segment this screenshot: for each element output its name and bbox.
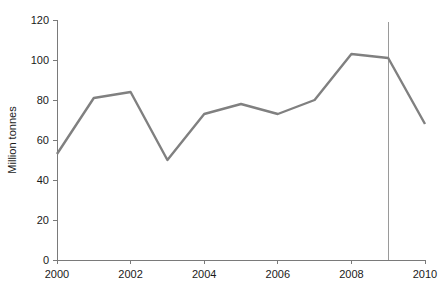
y-tick-label: 40 xyxy=(37,174,49,186)
y-axis-title: Million tonnes xyxy=(6,106,18,174)
y-tick-label: 20 xyxy=(37,214,49,226)
y-tick-label: 100 xyxy=(31,54,49,66)
y-tick-label: 60 xyxy=(37,134,49,146)
chart-canvas: 020406080100120 200020022004200620082010… xyxy=(0,0,446,294)
y-tick-label: 80 xyxy=(37,94,49,106)
x-tick-label: 2008 xyxy=(339,268,363,280)
x-tick-label: 2010 xyxy=(413,268,437,280)
line-chart: 020406080100120 200020022004200620082010… xyxy=(0,0,446,294)
x-tick-label: 2000 xyxy=(45,268,69,280)
y-tick-label: 120 xyxy=(31,14,49,26)
x-tick-label: 2006 xyxy=(266,268,290,280)
chart-background xyxy=(0,0,446,294)
x-tick-label: 2002 xyxy=(118,268,142,280)
x-tick-label: 2004 xyxy=(192,268,216,280)
y-tick-label: 0 xyxy=(43,254,49,266)
